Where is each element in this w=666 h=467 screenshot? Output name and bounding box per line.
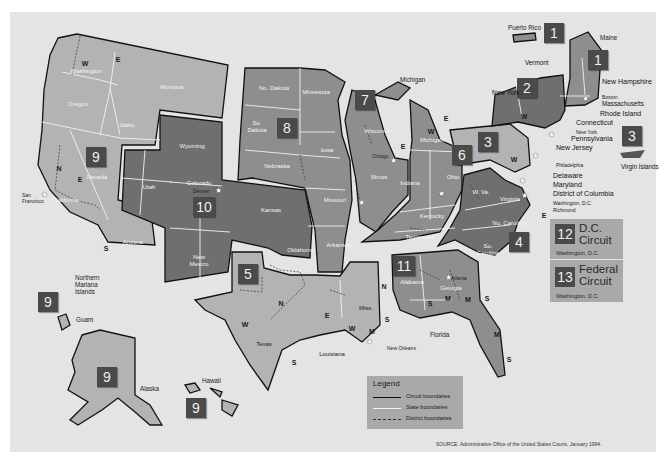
star-chicago: ★ xyxy=(390,157,397,164)
label-kansas: Kansas xyxy=(261,207,281,214)
legend-title: Legend xyxy=(373,379,400,388)
label-california: California xyxy=(53,197,78,204)
legend-item-state: State boundaries xyxy=(373,404,463,414)
label-ohio: Ohio xyxy=(447,174,460,181)
legend: Legend Circuit boundaries State boundari… xyxy=(367,376,463,429)
dc-circuit-title-line1: D.C. xyxy=(579,222,602,234)
puerto-rico-shape xyxy=(513,33,536,42)
star-philadelphia: ★ xyxy=(532,152,539,159)
district-n-ca: N xyxy=(56,165,61,172)
legend-label-state: State boundaries xyxy=(406,404,448,410)
star-st-louis: ★ xyxy=(358,199,365,206)
district-w-pa: W xyxy=(511,156,518,163)
label-new-jersey: New Jersey xyxy=(556,144,578,152)
label-nevada: Nevada xyxy=(87,174,108,181)
circuit-3-badge-virgin-islands: 3 xyxy=(622,126,642,146)
label-new-orleans: New Orleans xyxy=(387,345,416,352)
district-w-wa: W xyxy=(82,60,89,67)
label-virginia: Virginia xyxy=(500,196,520,203)
label-vermont: Vermont xyxy=(525,59,548,67)
circuit-13-badge: 13 xyxy=(555,267,575,287)
label-iowa: Iowa xyxy=(321,147,334,154)
label-montana: Montana xyxy=(160,84,183,91)
federal-circuit-location: Washington, D.C. xyxy=(556,293,599,299)
district-m-la: M xyxy=(369,328,375,335)
dc-circuit-title-line2: Circuit xyxy=(579,234,612,246)
circuit-8-badge: 8 xyxy=(277,118,297,138)
circuit-11-badge: 11 xyxy=(393,256,415,276)
district-n-ms: N xyxy=(381,283,386,290)
label-massachusetts: Massachusetts xyxy=(602,100,644,108)
district-m-ga2: M xyxy=(465,296,471,303)
star-new-orleans: ★ xyxy=(366,338,373,345)
district-e-wa: E xyxy=(116,56,121,63)
label-michigan-upper: Michigan xyxy=(400,76,425,83)
label-missouri: Missouri xyxy=(324,197,346,204)
label-pennsylvania: Pennsylvania xyxy=(571,135,613,143)
district-s-tx: S xyxy=(292,359,297,366)
label-louisiana: Louisiana xyxy=(319,351,345,358)
circuit-6-badge: 6 xyxy=(452,145,472,165)
legend-label-district: District boundaries xyxy=(406,415,452,421)
label-idaho: Idaho xyxy=(119,122,134,129)
federal-circuit-title-line2: Circuit xyxy=(579,275,612,287)
label-kentucky: Kentucky xyxy=(420,213,445,220)
district-s-ca: S xyxy=(104,245,109,252)
district-w-la: W xyxy=(349,325,356,332)
circuit-9-badge-hawaii: 9 xyxy=(186,398,206,418)
star-washington-dc: ★ xyxy=(519,177,526,184)
label-hawaii: Hawaii xyxy=(202,377,221,384)
circuit-9-badge-guam: 9 xyxy=(38,292,58,312)
label-no-carolina: No. Carolina xyxy=(492,220,525,227)
district-s-ga: S xyxy=(485,295,490,302)
district-n-tx: N xyxy=(278,300,283,307)
district-s-ms: S xyxy=(385,316,390,323)
legend-item-district: District boundaries xyxy=(373,415,463,425)
label-washington-dc: Washington, D.C. xyxy=(553,200,592,207)
legend-label-circuit: Circuit boundaries xyxy=(406,393,450,399)
star-new-york: ★ xyxy=(548,131,555,138)
circuit-1-badge: 1 xyxy=(588,50,608,70)
star-denver: ★ xyxy=(215,187,222,194)
label-atlanta: Atlanta xyxy=(451,275,467,282)
legend-swatch-circuit xyxy=(373,397,401,398)
district-e-mi: E xyxy=(444,115,449,122)
federal-circuit-box: 13 Federal Circuit Washington, D.C. xyxy=(550,260,623,302)
label-puerto-rico: Puerto Rico xyxy=(508,24,541,31)
district-w-tx: W xyxy=(242,321,249,328)
label-chicago: Chicago xyxy=(372,153,389,160)
label-philadelphia: Philadelphia xyxy=(556,162,583,169)
label-new-york: New York xyxy=(492,89,512,97)
label-arkansas: Arkansas xyxy=(326,242,351,249)
label-nebraska: Nebraska xyxy=(264,163,290,170)
label-georgia: Georgia xyxy=(440,285,461,292)
label-alabama: Alabama xyxy=(400,279,424,286)
circuit-2-badge: 2 xyxy=(517,78,537,98)
label-colorado: Colorado xyxy=(187,180,211,187)
label-oklahoma: Oklahoma xyxy=(287,247,314,254)
label-district-of-columbia: District of Columbia xyxy=(553,190,614,198)
label-washington: Washington xyxy=(70,68,101,75)
label-richmond: Richmond xyxy=(553,207,576,214)
label-alaska: Alaska xyxy=(140,385,159,392)
district-e-nc: E xyxy=(542,212,547,219)
label-so-dakota: So. Dakota xyxy=(245,120,269,134)
circuit-12-badge: 12 xyxy=(555,224,575,244)
label-denver: Denver xyxy=(193,188,209,195)
star-cincinnati: ★ xyxy=(438,190,445,197)
label-northern-mariana: Northern Mariana Islands xyxy=(75,274,109,295)
virgin-islands-shape xyxy=(620,150,645,158)
label-oregon: Oregon xyxy=(68,101,88,108)
label-new-hampshire: New Hampshire xyxy=(602,78,642,86)
label-connecticut: Connecticut xyxy=(576,119,613,127)
star-richmond: ★ xyxy=(521,192,528,199)
label-virgin-islands: Virgin Islands xyxy=(621,163,645,171)
district-m-ga: M xyxy=(445,295,451,302)
label-miss: Miss. xyxy=(359,305,373,312)
district-e-ca: E xyxy=(78,176,83,183)
label-so-carolina: So. Carolina xyxy=(475,243,501,257)
label-tennessee: Tennessee xyxy=(405,234,434,241)
label-rhode-island: Rhode Island xyxy=(600,110,641,118)
circuit-4-badge: 4 xyxy=(509,232,529,252)
label-maine: Maine xyxy=(600,34,617,41)
